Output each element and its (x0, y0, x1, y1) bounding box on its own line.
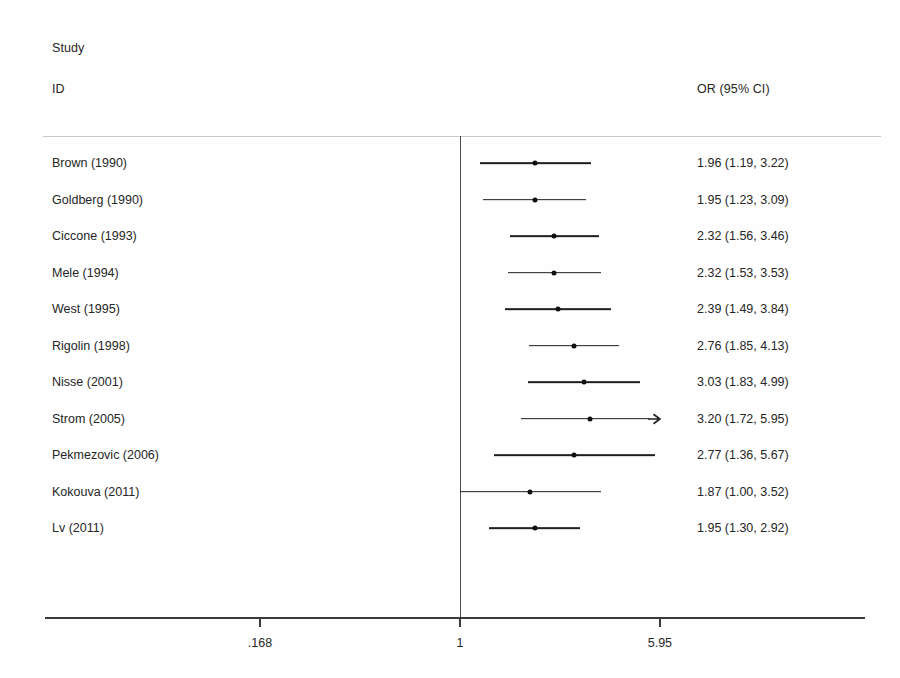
or-value-label: 1.96 (1.19, 3.22) (697, 156, 789, 170)
effect-estimate-marker (582, 380, 587, 385)
study-label: Brown (1990) (52, 156, 127, 170)
confidence-interval-line (521, 418, 649, 420)
null-effect-line (460, 136, 461, 625)
effect-estimate-marker (571, 343, 576, 348)
study-label: Nisse (2001) (52, 375, 123, 389)
x-axis-tick (259, 618, 260, 627)
effect-estimate-marker (572, 453, 577, 458)
effect-estimate-marker (533, 161, 538, 166)
or-value-label: 2.77 (1.36, 5.67) (697, 448, 789, 462)
effect-estimate-marker (552, 270, 557, 275)
study-label: West (1995) (52, 302, 120, 316)
column-header-or: OR (95% CI) (697, 82, 770, 96)
or-value-label: 1.95 (1.30, 2.92) (697, 521, 789, 535)
x-axis-tick-label: 5.95 (648, 636, 672, 650)
or-value-label: 2.32 (1.53, 3.53) (697, 266, 789, 280)
or-value-label: 2.76 (1.85, 4.13) (697, 339, 789, 353)
or-value-label: 2.32 (1.56, 3.46) (697, 229, 789, 243)
x-axis-line (45, 617, 865, 619)
forest-plot: Study ID OR (95% CI) .16815.95 Brown (19… (0, 0, 900, 678)
column-header-study-line2: ID (52, 82, 65, 96)
or-value-label: 1.95 (1.23, 3.09) (697, 193, 789, 207)
effect-estimate-marker (532, 526, 537, 531)
x-axis-tick-label: .168 (248, 636, 272, 650)
study-label: Ciccone (1993) (52, 229, 137, 243)
effect-estimate-marker (555, 307, 560, 312)
study-label: Rigolin (1998) (52, 339, 130, 353)
study-label: Kokouva (2011) (52, 485, 139, 499)
study-label: Strom (2005) (52, 412, 125, 426)
header-separator (43, 136, 881, 137)
effect-estimate-marker (532, 197, 537, 202)
effect-estimate-marker (552, 234, 557, 239)
ci-truncation-arrow-icon (648, 413, 661, 425)
x-axis-tick-label: 1 (457, 636, 464, 650)
x-axis-tick (659, 618, 660, 627)
effect-estimate-marker (528, 489, 533, 494)
study-label: Pekmezovic (2006) (52, 448, 159, 462)
effect-estimate-marker (588, 416, 593, 421)
or-value-label: 3.20 (1.72, 5.95) (697, 412, 789, 426)
or-value-label: 1.87 (1.00, 3.52) (697, 485, 789, 499)
study-label: Lv (2011) (52, 521, 104, 535)
study-label: Goldberg (1990) (52, 193, 143, 207)
or-value-label: 3.03 (1.83, 4.99) (697, 375, 789, 389)
x-axis-tick (459, 618, 460, 627)
study-label: Mele (1994) (52, 266, 119, 280)
column-header-study-line1: Study (52, 41, 84, 55)
or-value-label: 2.39 (1.49, 3.84) (697, 302, 789, 316)
